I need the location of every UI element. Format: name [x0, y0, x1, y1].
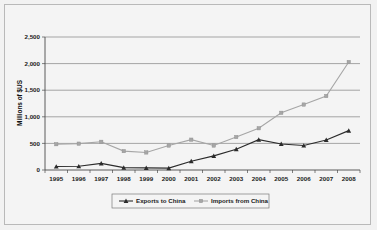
legend-label: Exports to China	[136, 197, 186, 204]
legend-label: Imports from China	[211, 197, 269, 204]
chart-legend: Exports to ChinaImports from China	[112, 194, 269, 208]
data-point-marker-square	[199, 199, 202, 202]
y-tick-label: 1,000	[25, 113, 41, 120]
x-tick-label: 2000	[162, 175, 176, 182]
data-point-marker-square	[280, 111, 283, 114]
trade-line-chart: 05001,0001,5002,0002,500 199519961997199…	[0, 0, 377, 230]
x-tick-label: 1998	[117, 175, 131, 182]
y-axis-tick-labels: 05001,0001,5002,0002,500	[25, 33, 41, 173]
y-tick-label: 500	[30, 140, 41, 147]
y-axis-title: Millions of $US	[16, 79, 24, 126]
data-point-marker-square	[145, 151, 148, 154]
data-point-marker-square	[212, 144, 215, 147]
x-tick-label: 2006	[297, 175, 311, 182]
x-tick-label: 2007	[319, 175, 333, 182]
x-tick-label: 2002	[207, 175, 221, 182]
data-point-marker-square	[77, 142, 80, 145]
data-point-marker-square	[347, 60, 350, 63]
y-tick-label: 0	[37, 166, 41, 173]
x-tick-label: 2003	[229, 175, 243, 182]
data-point-marker-square	[235, 135, 238, 138]
data-point-marker-square	[190, 138, 193, 141]
x-tick-label: 1996	[72, 175, 86, 182]
x-tick-label: 1995	[49, 175, 63, 182]
x-axis-tick-labels: 1995199619971998199920002001200220032004…	[49, 175, 356, 182]
x-tick-label: 1997	[94, 175, 108, 182]
y-tick-label: 2,500	[25, 33, 41, 40]
plot-area-background	[45, 37, 360, 170]
x-tick-label: 2004	[252, 175, 266, 182]
data-point-marker-square	[55, 142, 58, 145]
data-point-marker-square	[167, 144, 170, 147]
x-tick-label: 1999	[139, 175, 153, 182]
y-tick-label: 1,500	[25, 86, 41, 93]
data-point-marker-square	[122, 149, 125, 152]
data-point-marker-square	[100, 140, 103, 143]
x-tick-label: 2005	[274, 175, 288, 182]
x-tick-label: 2008	[342, 175, 356, 182]
y-tick-label: 2,000	[25, 60, 41, 67]
data-point-marker-square	[257, 127, 260, 130]
data-point-marker-square	[302, 103, 305, 106]
data-point-marker-square	[325, 94, 328, 97]
x-tick-label: 2001	[184, 175, 198, 182]
